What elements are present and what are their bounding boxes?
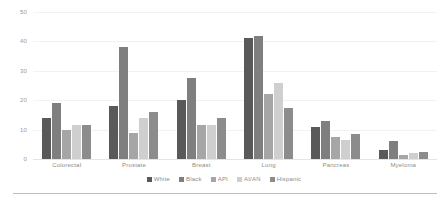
bar[interactable] xyxy=(264,94,273,159)
bar[interactable] xyxy=(72,125,81,159)
x-axis-category-label: Prostate xyxy=(100,162,167,168)
bar[interactable] xyxy=(109,106,118,159)
legend-swatch-icon xyxy=(147,177,152,182)
bar[interactable] xyxy=(244,38,253,159)
bar-group xyxy=(235,12,302,159)
bar[interactable] xyxy=(119,47,128,159)
bar[interactable] xyxy=(129,133,138,159)
x-axis-labels: ColorectalProstateBreastLungPancreasMyel… xyxy=(33,162,437,168)
bar[interactable] xyxy=(331,137,340,159)
legend-label: AI/AN xyxy=(244,176,261,182)
bar-chart: 01020304050 ColorectalProstateBreastLung… xyxy=(0,0,448,202)
x-axis-category-label: Lung xyxy=(235,162,302,168)
y-axis-tick-label: 30 xyxy=(20,68,27,74)
x-axis-category-label: Breast xyxy=(168,162,235,168)
bar[interactable] xyxy=(321,121,330,159)
y-axis-tick-label: 40 xyxy=(20,38,27,44)
bar[interactable] xyxy=(409,153,418,159)
bar[interactable] xyxy=(42,118,51,159)
bar[interactable] xyxy=(379,150,388,159)
bar-group xyxy=(370,12,437,159)
bar[interactable] xyxy=(419,152,428,159)
y-axis-tick-label: 20 xyxy=(20,97,27,103)
legend-label: White xyxy=(154,176,170,182)
bar[interactable] xyxy=(311,127,320,159)
bar-group xyxy=(302,12,369,159)
bar-group xyxy=(168,12,235,159)
y-axis-tick-label: 50 xyxy=(20,9,27,15)
bottom-divider xyxy=(13,193,437,194)
x-axis-category-label: Pancreas xyxy=(302,162,369,168)
legend-item[interactable]: API xyxy=(211,176,228,182)
bar[interactable] xyxy=(62,130,71,159)
bar[interactable] xyxy=(351,134,360,159)
bar[interactable] xyxy=(217,118,226,159)
bar[interactable] xyxy=(52,103,61,159)
legend-swatch-icon xyxy=(237,177,242,182)
bar[interactable] xyxy=(177,100,186,159)
bar[interactable] xyxy=(207,125,216,159)
bar[interactable] xyxy=(139,118,148,159)
legend-item[interactable]: Hispanic xyxy=(270,176,302,182)
plot-area: 01020304050 xyxy=(33,12,437,159)
bar[interactable] xyxy=(254,36,263,159)
bar[interactable] xyxy=(389,141,398,159)
bar[interactable] xyxy=(341,140,350,159)
legend-label: Black xyxy=(186,176,202,182)
bar[interactable] xyxy=(399,155,408,159)
y-axis-tick-label: 10 xyxy=(20,127,27,133)
legend-swatch-icon xyxy=(179,177,184,182)
legend-item[interactable]: Black xyxy=(179,176,202,182)
bar-group xyxy=(100,12,167,159)
chart-legend: WhiteBlackAPIAI/ANHispanic xyxy=(0,176,448,182)
bar[interactable] xyxy=(187,78,196,159)
bar[interactable] xyxy=(149,112,158,159)
bar-groups xyxy=(33,12,437,159)
legend-item[interactable]: White xyxy=(147,176,170,182)
bar[interactable] xyxy=(274,83,283,159)
bar[interactable] xyxy=(284,108,293,159)
legend-label: Hispanic xyxy=(277,176,302,182)
x-axis-category-label: Myeloma xyxy=(370,162,437,168)
bar-group xyxy=(33,12,100,159)
bar[interactable] xyxy=(82,125,91,159)
bar[interactable] xyxy=(197,125,206,159)
y-axis-tick-label: 0 xyxy=(23,156,27,162)
legend-swatch-icon xyxy=(211,177,216,182)
legend-label: API xyxy=(218,176,228,182)
legend-swatch-icon xyxy=(270,177,275,182)
axis-baseline: 0 xyxy=(33,159,437,160)
x-axis-category-label: Colorectal xyxy=(33,162,100,168)
legend-item[interactable]: AI/AN xyxy=(237,176,261,182)
